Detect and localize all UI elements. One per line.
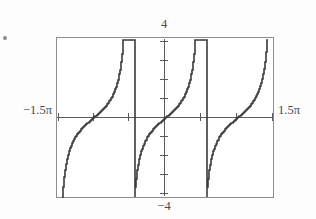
y-max-label: 4 [0,18,316,31]
bullet-marker [3,36,7,40]
x-max-label: 1.5π [278,104,300,117]
curve-branch-3 [111,40,147,197]
curve-branch-7 [255,40,268,99]
figure-canvas: 4 −4 −1.5π 1.5π [0,0,316,219]
plot-graphic [56,37,274,198]
curve-branches [62,40,268,197]
curve-branch-4 [147,99,183,138]
curve-branch-6 [219,99,255,138]
curve-branch-2 [75,99,111,138]
curve-branch-5 [183,40,219,197]
y-min-label: −4 [0,200,316,213]
x-min-label: −1.5π [4,104,52,117]
curve-branch-1 [62,138,75,197]
